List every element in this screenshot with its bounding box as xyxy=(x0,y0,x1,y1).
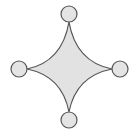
node-top-circle xyxy=(61,6,77,22)
node-right-circle xyxy=(112,61,128,77)
diagram-canvas xyxy=(0,0,137,137)
node-left-circle xyxy=(11,61,27,77)
concave-star-shape xyxy=(27,22,112,112)
node-bottom-circle xyxy=(61,112,77,128)
